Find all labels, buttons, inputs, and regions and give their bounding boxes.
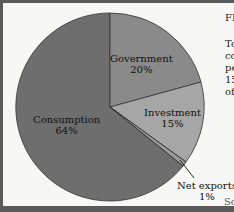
source-fragment: So [224, 196, 234, 206]
investment-value: 15% [144, 118, 201, 129]
caption-line-3: pe [225, 62, 234, 74]
caption-line-2: co [225, 50, 234, 62]
government-value: 20% [110, 64, 173, 75]
label-investment: Investment 15% [144, 107, 201, 129]
caption-fragment: To co pe 15 of [225, 38, 234, 98]
label-consumption: Consumption 64% [33, 114, 100, 136]
caption-line-5: of [225, 86, 234, 98]
net-exports-label: Net exports [177, 180, 234, 191]
consumption-value: 64% [33, 125, 100, 136]
caption-line-4: 15 [225, 74, 234, 86]
figure-title: FI [225, 12, 234, 24]
consumption-label: Consumption [33, 114, 100, 125]
net-exports-leader [180, 160, 194, 178]
government-label: Government [110, 53, 173, 64]
chart-frame: Government 20% Investment 15% Consumptio… [3, 3, 234, 206]
investment-label: Investment [144, 107, 201, 118]
label-government: Government 20% [110, 53, 173, 75]
pie-chart [3, 3, 234, 206]
caption-line-1: To [225, 38, 234, 50]
